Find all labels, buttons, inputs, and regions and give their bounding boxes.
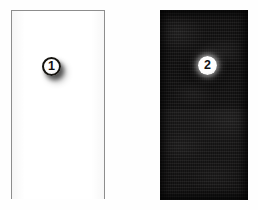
panel-dark-lower-band <box>160 109 248 200</box>
callout-marker-2[interactable]: 2 <box>198 56 217 75</box>
panel-dark-vignette <box>160 10 248 200</box>
callout-marker-2-label: 2 <box>204 59 211 72</box>
panel-dark-grain <box>160 10 248 200</box>
callout-marker-1[interactable]: 1 <box>42 57 61 76</box>
callout-marker-1-label: 1 <box>48 60 55 73</box>
panel-dark-specimen[interactable] <box>160 10 248 200</box>
panel-dark-striations <box>160 10 248 200</box>
panel-dark-mottling <box>160 10 248 200</box>
figure-canvas: 1 2 <box>0 0 258 210</box>
panel-light-specimen[interactable] <box>11 10 105 199</box>
panel-light-bottom-fade <box>11 185 105 199</box>
